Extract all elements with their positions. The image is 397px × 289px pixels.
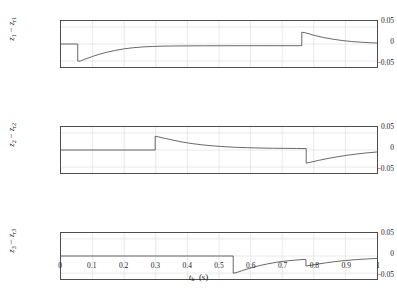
- x-tick-label-3: 0.3: [140, 262, 170, 270]
- x-tick-label-1: 0.1: [77, 262, 107, 270]
- x-tick-label-9: 0.9: [331, 262, 361, 270]
- panel-4: τj(k) (ms) 2.3 2.2 2.1 2: [0, 169, 397, 213]
- panel-3: z3 − zr3 0.05 0 −0.05: [0, 116, 397, 164]
- panel-1-plot: [60, 20, 378, 68]
- x-tick-label-4: 0.4: [172, 262, 202, 270]
- figure-root: z1 − zr1 0.05 0 −0.05 z2 − zr2 0.05 0 −0…: [0, 0, 397, 289]
- panel-5: j(k) 3 2 1 0: [0, 220, 397, 260]
- panel-1: z1 − zr1 0.05 0 −0.05: [0, 10, 397, 58]
- x-tick-label-7: 0.7: [268, 262, 298, 270]
- panel-1-ylabel: z1 − zr1: [0, 24, 24, 33]
- x-tick-label-5: 0.5: [204, 262, 234, 270]
- x-tick-label-8: 0.8: [299, 262, 329, 270]
- x-tick-label-6: 0.6: [236, 262, 266, 270]
- x-axis-label: tk (s): [0, 272, 397, 282]
- panel-1-gridlines: [61, 21, 377, 67]
- x-tick-label-2: 0.2: [109, 262, 139, 270]
- x-tick-label-10: 1: [363, 262, 393, 270]
- x-tick-label-0: 0: [45, 262, 75, 270]
- panel-1-svg: [61, 21, 377, 67]
- panel-2: z2 − zr2 0.05 0 −0.05: [0, 63, 397, 111]
